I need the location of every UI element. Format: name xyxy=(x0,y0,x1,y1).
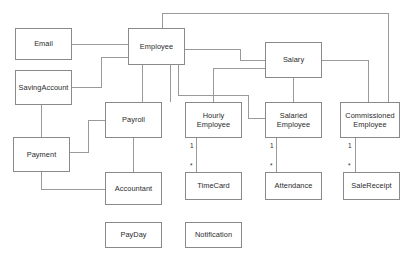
multiplicity-hourly-timecard-many: * xyxy=(190,163,193,169)
class-box-payday[interactable]: PayDay xyxy=(105,222,162,248)
class-box-payment[interactable]: Payment xyxy=(13,137,70,172)
class-name-attendance: Attendance xyxy=(273,181,315,190)
class-box-payroll[interactable]: Payroll xyxy=(105,102,162,138)
multiplicity-salaried-attendance-many: * xyxy=(270,163,273,169)
class-name-savings: SavingAccount xyxy=(17,83,71,92)
class-name-commissioned: Commissioned Employee xyxy=(343,111,396,129)
class-box-commissioned[interactable]: Commissioned Employee xyxy=(340,102,400,138)
class-name-payday: PayDay xyxy=(118,230,148,239)
class-box-notification[interactable]: Notification xyxy=(185,222,242,248)
class-name-salaried: Salaried Employee xyxy=(275,111,312,129)
connector-savings-employee xyxy=(72,57,128,87)
class-box-email[interactable]: Email xyxy=(15,28,72,60)
class-name-salary: Salary xyxy=(281,55,306,64)
class-box-savings[interactable]: SavingAccount xyxy=(15,70,72,105)
class-box-employee[interactable]: Employee xyxy=(128,28,185,65)
class-box-accountant[interactable]: Accountant xyxy=(105,172,162,205)
class-name-payment: Payment xyxy=(25,150,59,159)
connector-payment-accountant xyxy=(41,172,105,189)
class-name-notification: Notification xyxy=(193,230,234,239)
class-name-employee: Employee xyxy=(138,42,175,51)
multiplicity-commissioned-receipt-many: * xyxy=(348,163,351,169)
class-box-attendance[interactable]: Attendance xyxy=(265,172,322,200)
class-name-email: Email xyxy=(32,39,55,48)
class-box-hourly[interactable]: Hourly Employee xyxy=(185,102,242,138)
class-name-payroll: Payroll xyxy=(120,115,147,124)
connector-salary-commissioned xyxy=(322,60,368,102)
class-name-accountant: Accountant xyxy=(113,184,154,193)
class-box-salary[interactable]: Salary xyxy=(265,42,322,78)
class-box-timecard[interactable]: TimeCard xyxy=(185,172,242,200)
connector-payment-payroll xyxy=(70,120,105,152)
multiplicity-salaried-attendance-one: 1 xyxy=(270,143,274,149)
class-box-salaried[interactable]: Salaried Employee xyxy=(265,102,322,138)
class-name-timecard: TimeCard xyxy=(195,181,232,190)
class-name-hourly: Hourly Employee xyxy=(195,111,232,129)
class-box-salereceipt[interactable]: SaleReceipt xyxy=(343,172,400,200)
connector-salary-hourly xyxy=(213,68,265,102)
class-name-salereceipt: SaleReceipt xyxy=(349,181,393,190)
multiplicity-hourly-timecard-one: 1 xyxy=(190,143,194,149)
uml-class-diagram: EmailEmployeeSalarySavingAccountPayrollH… xyxy=(0,0,412,265)
connector-employee-salary xyxy=(185,49,265,60)
multiplicity-commissioned-receipt-one: 1 xyxy=(348,143,352,149)
